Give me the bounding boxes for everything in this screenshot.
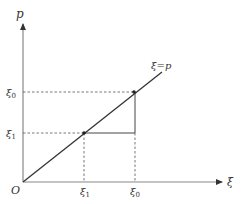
- identity-line-label: ξ=p: [151, 60, 172, 71]
- diagram-canvas: p ξ O ξ=p ξ0 ξ1 ξ1 ξ0: [0, 0, 241, 204]
- x-tick-xi0: ξ0: [130, 186, 140, 199]
- x-axis-label: ξ: [227, 176, 234, 189]
- point-xi1: [82, 131, 86, 135]
- y-tick-xi0: ξ0: [6, 87, 16, 100]
- point-xi0: [132, 90, 136, 94]
- origin-label: O: [11, 184, 20, 197]
- x-tick-xi1: ξ1: [80, 186, 90, 199]
- y-axis-label: p: [16, 7, 24, 21]
- y-tick-xi1: ξ1: [6, 128, 16, 141]
- identity-line: [23, 72, 162, 182]
